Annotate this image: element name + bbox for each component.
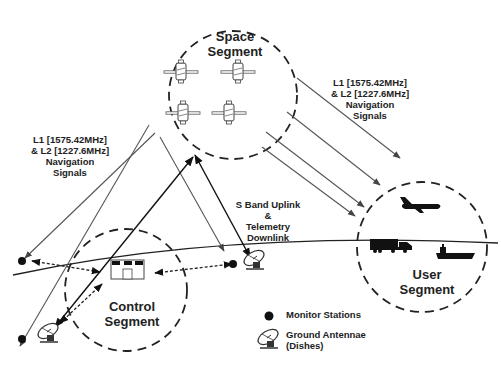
nav-signal-label-left: L1 [1575.42MHz] & L2 [1227.6MHz] Navigat… xyxy=(30,135,110,179)
nav-signal-label-right: L1 [1575.42MHz] & L2 [1227.6MHz] Navigat… xyxy=(328,78,412,122)
control-segment-label: Control Segment xyxy=(100,300,164,330)
uplink-downlink-label: S Band Uplink & Telemetry Downlink xyxy=(233,200,303,244)
legend-monitor-stations-label: Monitor Stations xyxy=(286,310,361,321)
airplane-icon xyxy=(400,197,441,213)
satellite-icon xyxy=(221,60,255,83)
satellite-icon xyxy=(166,101,200,124)
ship-icon xyxy=(436,244,475,259)
monitor-station-icon xyxy=(229,260,237,268)
truck-icon xyxy=(370,239,412,253)
monitor-station-icon xyxy=(18,335,26,343)
satellite-icon xyxy=(164,60,198,83)
ground-antenna-icon xyxy=(241,247,266,270)
control-segment-circle xyxy=(65,229,187,351)
space-segment-label: Space Segment xyxy=(205,30,265,60)
legend-ground-antenna-icon xyxy=(255,326,280,349)
legend-monitor-station-icon xyxy=(265,312,274,321)
master-control-station-icon xyxy=(111,260,144,279)
monitor-station-icon xyxy=(18,257,26,265)
user-segment-label: User Segment xyxy=(395,268,459,298)
legend-ground-antennae-label: Ground Antennae (Dishes) xyxy=(286,330,366,352)
satellite-icon xyxy=(212,101,246,124)
ground-antenna-icon xyxy=(35,320,60,343)
